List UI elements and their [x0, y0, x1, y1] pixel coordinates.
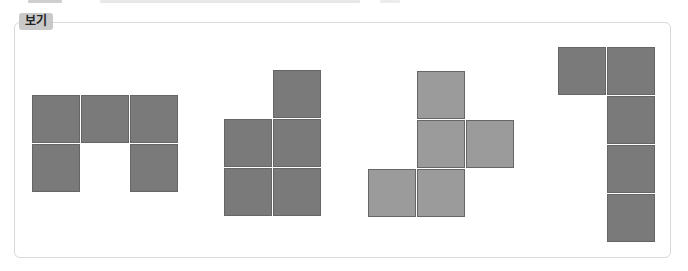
square-cell [558, 47, 606, 95]
square-cell [130, 144, 178, 192]
square-cell [607, 96, 655, 144]
square-cell [607, 194, 655, 242]
square-cell [273, 168, 321, 216]
square-cell [417, 71, 465, 119]
example-label: 보기 [19, 13, 53, 30]
square-cell [273, 70, 321, 118]
cropped-question-text [0, 0, 688, 4]
square-cell [466, 120, 514, 168]
square-cell [368, 169, 416, 217]
square-cell [417, 120, 465, 168]
square-cell [224, 119, 272, 167]
square-cell [81, 95, 129, 143]
square-cell [417, 169, 465, 217]
square-cell [32, 95, 80, 143]
square-cell [607, 47, 655, 95]
square-cell [273, 119, 321, 167]
square-cell [607, 145, 655, 193]
square-cell [32, 144, 80, 192]
square-cell [224, 168, 272, 216]
square-cell [130, 95, 178, 143]
